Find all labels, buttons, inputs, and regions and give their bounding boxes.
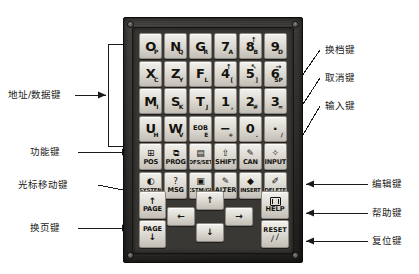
label-shift-key: 换档键 xyxy=(325,44,355,55)
label-cursor-move-keys: 光标移动键 xyxy=(18,179,68,190)
key-sub-label: E xyxy=(204,132,208,138)
label-function-keys: 功能键 xyxy=(30,146,60,157)
key-eob-32[interactable]: EOBE xyxy=(189,116,212,142)
key-3-25[interactable]: 3= xyxy=(264,88,287,114)
key-main-label: T xyxy=(196,95,205,108)
key-ofs-set[interactable]: ▤OFS/SET xyxy=(189,143,212,170)
key-5-14[interactable]: 5↖] xyxy=(239,61,262,87)
key-9-05[interactable]: 9D xyxy=(264,33,287,59)
key-sub-label: R xyxy=(204,49,209,55)
mdi-keypad-panel: OPNQGR7A8↑B9DXCZYFL4↑[5↖]6→SPMISKTJ1,2#3… xyxy=(123,17,303,263)
key-sub-label: V xyxy=(179,132,184,138)
key-u-30[interactable]: UH xyxy=(139,116,162,142)
key-2-24[interactable]: 2# xyxy=(239,88,262,114)
cursor-down-icon: ↓ xyxy=(206,228,214,237)
key-label: PROG xyxy=(166,159,186,165)
delete-icon: ✐ xyxy=(272,177,280,186)
eraser-icon: ⟋⟋ xyxy=(269,232,281,243)
cursor-up-icon: ↑ xyxy=(206,196,214,205)
page-down-key[interactable]: PAGE↓ xyxy=(139,220,166,248)
monitor-icon xyxy=(270,197,281,206)
key-sub-label: Y xyxy=(179,77,183,83)
key-sub-label: [ xyxy=(230,77,233,83)
key-m-20[interactable]: MI xyxy=(139,88,162,114)
key-main-label: 1 xyxy=(221,95,230,108)
reset-key-button[interactable]: RESET⟋⟋ xyxy=(261,220,289,248)
key-sub-label: B xyxy=(254,49,259,55)
key-8-04[interactable]: 8↑B xyxy=(239,33,262,59)
key-shift-arrow-icon: ↖ xyxy=(251,64,257,71)
key-prog[interactable]: ⧉PROG xyxy=(164,143,187,170)
key-sub-label: I xyxy=(156,104,158,110)
key-label: INPUT xyxy=(264,159,286,165)
key-0-34[interactable]: 0. xyxy=(239,116,262,142)
key-4-13[interactable]: 4↑[ xyxy=(214,61,237,87)
label-input-key: 输入键 xyxy=(325,100,355,111)
label-edit-keys: 编辑键 xyxy=(372,178,402,189)
key-g-02[interactable]: GR xyxy=(189,33,212,59)
key-shift-arrow-icon: → xyxy=(276,64,282,71)
label-help-key: 帮助键 xyxy=(372,207,402,218)
graph-icon: ▣ xyxy=(196,177,205,186)
key--33[interactable]: −+ xyxy=(214,116,237,142)
key-o-00[interactable]: OP xyxy=(139,33,162,59)
key-sub-label: / xyxy=(281,132,283,138)
message-icon: ? xyxy=(173,177,178,186)
key-label: OFS/SET xyxy=(189,159,212,165)
key-shift-arrow-icon: ↑ xyxy=(251,37,257,44)
key-f-12[interactable]: FL xyxy=(189,61,212,87)
key-pos[interactable]: ⊞POS xyxy=(139,143,162,170)
key-main-label: 0 xyxy=(246,122,255,135)
key-x-10[interactable]: XC xyxy=(139,61,162,87)
key-sub-label: SP xyxy=(274,77,283,83)
page-up-key[interactable]: ↑PAGE xyxy=(139,191,166,219)
cursor-left-key[interactable]: ← xyxy=(167,207,195,226)
help-key-button[interactable]: HELP xyxy=(261,191,289,219)
key-z-11[interactable]: ZY xyxy=(164,61,187,87)
label-reset-key: 复位键 xyxy=(372,235,402,246)
key-grid: OPNQGR7A8↑B9DXCZYFL4↑[5↖]6→SPMISKTJ1,2#3… xyxy=(139,33,287,199)
key-label: SHIFT xyxy=(215,159,236,165)
system-icon: ◐ xyxy=(147,177,155,186)
key-sub-label: ] xyxy=(255,77,258,83)
key-sub-label: H xyxy=(153,132,158,138)
key-shift-arrow-icon: ↑ xyxy=(226,64,232,71)
keypad-inner-bezel: OPNQGR7A8↑B9DXCZYFL4↑[5↖]6→SPMISKTJ1,2#3… xyxy=(132,27,294,254)
arrow-down-icon: ↓ xyxy=(149,233,157,242)
program-icon: ⧉ xyxy=(173,149,179,158)
key-1-23[interactable]: 1, xyxy=(214,88,237,114)
key-6-15[interactable]: 6→SP xyxy=(264,61,287,87)
key-w-31[interactable]: WV xyxy=(164,116,187,142)
key-sub-label: = xyxy=(278,104,283,110)
key-label: HELP xyxy=(265,206,284,213)
key-sub-label: J xyxy=(206,104,208,110)
key-sub-label: , xyxy=(231,104,233,110)
key-can[interactable]: ✎CAN xyxy=(239,143,262,170)
key-shift[interactable]: ⇧SHIFT xyxy=(214,143,237,170)
key-label: POS xyxy=(143,159,158,165)
cursor-up-key[interactable]: ↑ xyxy=(196,191,224,210)
cursor-right-icon: → xyxy=(235,212,243,221)
key-label: CAN xyxy=(243,159,258,165)
key-label: PAGE xyxy=(143,206,162,213)
key-t-22[interactable]: TJ xyxy=(189,88,212,114)
key-s-21[interactable]: SK xyxy=(164,88,187,114)
key-sub-label: Q xyxy=(178,49,183,55)
insert-icon: ◆ xyxy=(247,177,254,186)
cancel-icon: ✎ xyxy=(247,149,255,158)
cursor-right-key[interactable]: → xyxy=(225,207,253,226)
cursor-down-key[interactable]: ↓ xyxy=(196,223,224,242)
key-main-label: · xyxy=(273,122,278,135)
offset-icon: ▤ xyxy=(196,149,205,158)
key-7-03[interactable]: 7A xyxy=(214,33,237,59)
label-cancel-key: 取消键 xyxy=(325,72,355,83)
key-n-01[interactable]: NQ xyxy=(164,33,187,59)
input-icon: ✧ xyxy=(272,149,280,158)
position-icon: ⊞ xyxy=(147,149,155,158)
key-sub-label: + xyxy=(228,132,233,138)
key-sub-label: P xyxy=(154,49,158,55)
key-dot-35[interactable]: ·/ xyxy=(264,116,287,142)
key-sub-label: K xyxy=(179,104,184,110)
shift-icon: ⇧ xyxy=(222,149,230,158)
key-input[interactable]: ✧INPUT xyxy=(264,143,287,170)
